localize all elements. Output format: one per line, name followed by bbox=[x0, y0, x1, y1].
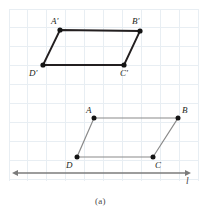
geometry-figure: A'B'C'D'ABCDl (a) bbox=[0, 0, 206, 215]
grid-layer bbox=[9, 9, 198, 181]
preimage-parallelogram bbox=[77, 118, 178, 157]
vertex-label-b-prime: B' bbox=[132, 17, 139, 26]
vertex-label-a: A bbox=[86, 106, 92, 115]
line-label-l: l bbox=[186, 177, 189, 187]
vertex-label-b: B bbox=[182, 106, 188, 115]
vertex-label-c-prime: C' bbox=[120, 69, 128, 78]
vertex-label-d: D bbox=[66, 161, 73, 170]
vertex-label-a-prime: A' bbox=[51, 17, 58, 26]
figure-caption: (a) bbox=[95, 197, 106, 206]
image-parallelogram bbox=[43, 30, 140, 65]
vertex-label-c: C bbox=[155, 161, 161, 170]
vertex-label-d-prime: D' bbox=[29, 69, 37, 78]
line-l-layer bbox=[12, 170, 191, 176]
figure-canvas bbox=[0, 0, 206, 215]
